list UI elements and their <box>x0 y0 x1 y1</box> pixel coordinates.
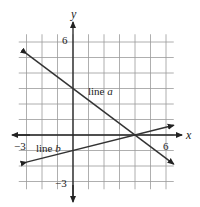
y-tick-neg3: −3 <box>55 177 67 189</box>
y-tick-6: 6 <box>62 34 68 46</box>
grid <box>19 34 174 189</box>
y-axis-label: y <box>70 7 77 21</box>
line-b-label: line b <box>36 142 61 154</box>
coordinate-plane: y x 6 −3 −3 6 line a line b <box>0 0 200 207</box>
line-a-label: line a <box>88 85 113 97</box>
x-axis-label: x <box>185 128 192 142</box>
x-tick-neg3: −3 <box>14 140 26 152</box>
x-tick-6: 6 <box>163 140 169 152</box>
